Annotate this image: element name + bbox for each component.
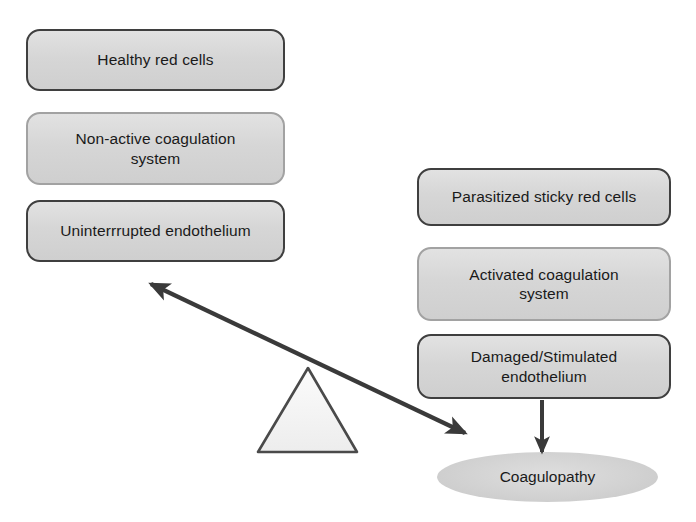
node-label: Damaged/Stimulated endothelium — [471, 347, 618, 386]
node-label: Uninterrrupted endothelium — [60, 221, 250, 240]
node-uninterrupted-endothelium[interactable]: Uninterrrupted endothelium — [26, 200, 285, 262]
node-activated-coagulation-system[interactable]: Activated coagulation system — [417, 247, 671, 321]
pivot-triangle — [258, 368, 357, 452]
node-damaged-stimulated-endothelium[interactable]: Damaged/Stimulated endothelium — [417, 334, 671, 399]
node-non-active-coagulation-system[interactable]: Non-active coagulation system — [26, 112, 285, 185]
node-label: Healthy red cells — [97, 50, 213, 69]
node-label: Coagulopathy — [500, 468, 596, 486]
node-coagulopathy[interactable]: Coagulopathy — [437, 452, 658, 502]
node-label: Non-active coagulation system — [76, 129, 236, 168]
diagram-canvas: Healthy red cells Non-active coagulation… — [0, 0, 696, 522]
node-parasitized-sticky-red-cells[interactable]: Parasitized sticky red cells — [417, 168, 671, 226]
node-healthy-red-cells[interactable]: Healthy red cells — [26, 29, 285, 91]
node-label: Parasitized sticky red cells — [452, 187, 637, 206]
node-label: Activated coagulation system — [469, 265, 618, 304]
